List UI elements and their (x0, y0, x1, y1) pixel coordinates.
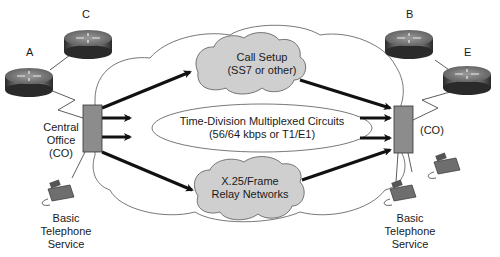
left-telephone-label: Basic Telephone Service (36, 212, 96, 251)
pstn-diagram: C A B E Central Office (CO) Basic Teleph… (0, 0, 500, 257)
right-telephone-label: Basic Telephone Service (380, 212, 440, 251)
right-telephone-1-icon (428, 152, 460, 178)
router-b-icon (385, 30, 433, 59)
left-phone-label-line2: Telephone (36, 225, 96, 238)
left-co-switch (83, 105, 102, 152)
right-telephone-2-icon (384, 179, 416, 205)
left-co-label-line3: (CO) (40, 147, 82, 160)
tdm-line1: Time-Division Multiplexed Circuits (162, 115, 362, 128)
x25-line1: X.25/Frame (200, 175, 300, 188)
left-phone-label-line3: Service (36, 238, 96, 251)
call-setup-line1: Call Setup (212, 51, 312, 64)
router-a-label: A (26, 46, 33, 59)
right-co-switch (394, 106, 413, 153)
right-co-label: (CO) (420, 124, 444, 137)
left-telephone-icon (42, 179, 74, 205)
call-setup-line2: (SS7 or other) (212, 64, 312, 77)
tdm-label: Time-Division Multiplexed Circuits (56/6… (162, 115, 362, 141)
right-phone-label-line2: Telephone (380, 225, 440, 238)
left-co-label-line1: Central (40, 121, 82, 134)
router-c-label: C (82, 8, 90, 21)
x25-line2: Relay Networks (200, 188, 300, 201)
router-e-label: E (464, 46, 471, 59)
call-setup-label: Call Setup (SS7 or other) (212, 51, 312, 77)
router-c-icon (64, 30, 112, 59)
left-co-label-line2: Office (40, 134, 82, 147)
tdm-line2: (56/64 kbps or T1/E1) (162, 128, 362, 141)
left-co-label: Central Office (CO) (40, 121, 82, 160)
router-a-icon (5, 68, 53, 97)
left-phone-label-line1: Basic (36, 212, 96, 225)
router-b-label: B (406, 8, 413, 21)
right-phone-label-line1: Basic (380, 212, 440, 225)
right-phone-label-line3: Service (380, 238, 440, 251)
x25-label: X.25/Frame Relay Networks (200, 175, 300, 201)
router-e-icon (443, 66, 491, 95)
